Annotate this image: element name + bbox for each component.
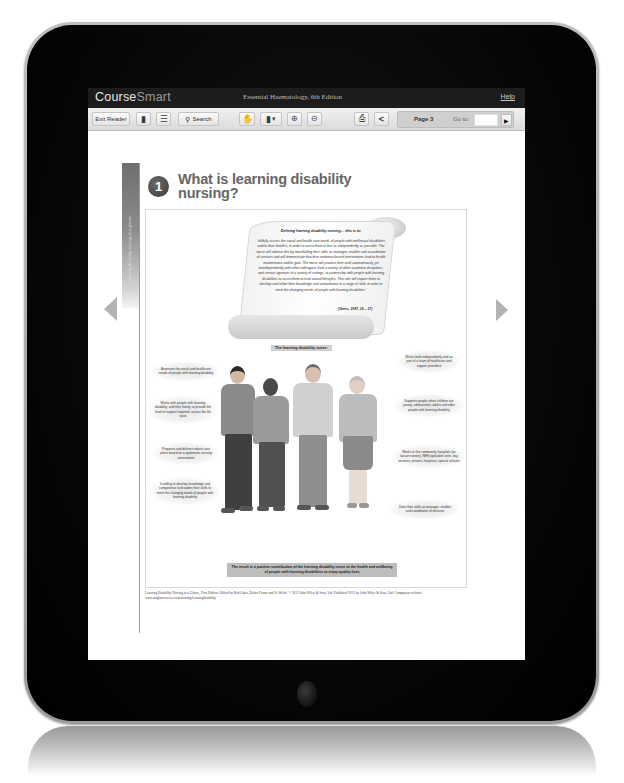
zoom-out-button[interactable]: ⊖ — [307, 112, 322, 126]
definition-scroll: Defining learning disability nursing… th… — [234, 217, 402, 337]
exit-reader-button[interactable]: Exit Reader — [92, 112, 130, 126]
goto-page-input[interactable] — [474, 114, 498, 126]
zoom-in-button[interactable]: ⊕ — [287, 112, 302, 126]
reader-toolbar: Exit Reader ▮ ☰ ⚲ Search ✋ ▮ ▾ ⊕ ⊖ ⎙ < — [88, 108, 525, 131]
scroll-heading: Defining learning disability nursing… th… — [266, 229, 376, 233]
next-page-arrow-icon[interactable] — [496, 299, 508, 321]
goto-label: Go to: — [453, 116, 469, 122]
previous-page-arrow-icon[interactable] — [104, 297, 117, 321]
chapter-side-strip: Learning disability nursing at a glance — [122, 163, 139, 308]
help-link[interactable]: Help — [501, 93, 515, 100]
callout-left-3: Prepares and delivers robust care plans … — [154, 442, 218, 465]
callout-right-3: Works in the community, hospitals (as li… — [392, 445, 466, 468]
book-title: Essential Haematology, 6th Edition — [243, 93, 342, 101]
scroll-curl-bottom — [228, 315, 374, 339]
callout-right-2: Supports people when children are young,… — [394, 394, 464, 417]
play-icon: ▶ — [504, 117, 509, 124]
exit-reader-label: Exit Reader — [95, 116, 126, 122]
zoom-out-icon: ⊖ — [311, 115, 318, 123]
callout-left-4: Is willing to develop knowledge and comp… — [150, 477, 220, 505]
figure-frame: Defining learning disability nursing… th… — [145, 209, 467, 588]
share-icon: < — [379, 115, 384, 124]
page-navigator: Page 3 Go to: ▶ — [397, 111, 514, 128]
home-button[interactable] — [297, 681, 317, 707]
printer-icon: ⎙ — [359, 115, 365, 123]
nurses-illustration — [217, 366, 393, 526]
pan-tool-button[interactable]: ✋ — [239, 112, 255, 126]
result-banner: The result is a positive contribution of… — [227, 563, 397, 577]
reader-screen: CourseSmart Essential Haematology, 6th E… — [88, 88, 525, 660]
illustration-title: The learning disability nurse: — [271, 345, 332, 351]
page-margin-rule — [139, 163, 140, 633]
search-label: Search — [192, 116, 211, 122]
page-info-button[interactable]: ▮ — [136, 112, 151, 126]
callout-left-1: Assesses the social and healthcare needs… — [152, 362, 220, 381]
table-of-contents-button[interactable]: ☰ — [156, 112, 171, 126]
chevron-down-icon: ▾ — [272, 115, 276, 123]
view-mode-dropdown[interactable]: ▮ ▾ — [260, 112, 282, 126]
page-icon: ▮ — [141, 115, 146, 124]
magnifier-icon: ⚲ — [185, 116, 190, 123]
logo-accent: Smart — [137, 90, 171, 104]
goto-page-button[interactable]: ▶ — [501, 114, 512, 126]
tablet-reflection — [28, 726, 596, 776]
coursesmart-logo[interactable]: CourseSmart — [95, 90, 171, 104]
callout-right-4: Uses their skills as manager, enabler an… — [390, 500, 460, 519]
print-button[interactable]: ⎙ — [354, 112, 369, 126]
search-button[interactable]: ⚲ Search — [178, 112, 219, 126]
app-header: CourseSmart Essential Haematology, 6th E… — [88, 88, 525, 108]
scroll-definition-text: 'skilfully assess the social and health … — [256, 239, 386, 293]
side-strip-text: Learning disability nursing at a glance — [127, 173, 132, 283]
chapter-title: What is learning disability nursing? — [178, 172, 398, 200]
share-button[interactable]: < — [374, 112, 389, 126]
callout-right-1: Works both independently and as part of … — [398, 350, 460, 373]
logo-main: Course — [95, 90, 137, 104]
callout-left-2: Works with people with learning disabili… — [148, 396, 218, 424]
current-page-label: Page 3 — [414, 116, 433, 122]
list-icon: ☰ — [160, 115, 168, 124]
hand-icon: ✋ — [242, 115, 253, 124]
zoom-in-icon: ⊕ — [291, 115, 298, 123]
scroll-citation: (Gates, 1997, 16 – 17) — [338, 307, 372, 311]
page-view-icon: ▮ — [266, 115, 271, 124]
chapter-number-badge: 1 — [148, 176, 169, 197]
footer-credit: Learning Disability Nursing at a Glance,… — [145, 591, 475, 601]
